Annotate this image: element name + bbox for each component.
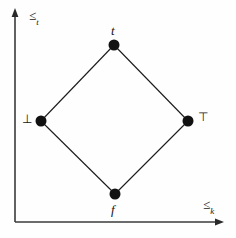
edge-top-right — [114, 45, 188, 121]
node-label-left: ⊥ — [22, 113, 32, 125]
lattice-edges — [41, 45, 188, 194]
lattice-nodes — [36, 40, 194, 200]
node-right[interactable] — [183, 116, 194, 127]
edge-left-top — [41, 45, 114, 121]
node-top[interactable] — [109, 40, 120, 51]
y-axis-label: ≤t — [29, 9, 39, 26]
bilattice-figure: t ⊥ ⊤ f ≤t ≤k — [0, 0, 236, 238]
edge-bottom-left — [41, 121, 115, 194]
x-axis-arrowhead — [215, 219, 224, 226]
x-axis-label: ≤k — [203, 198, 214, 215]
node-bottom[interactable] — [110, 189, 121, 200]
edge-right-bottom — [115, 121, 188, 194]
y-axis-arrowhead — [12, 8, 19, 17]
node-left[interactable] — [36, 116, 47, 127]
x-axis-label-subscript: k — [210, 206, 214, 216]
node-label-bottom: f — [111, 203, 115, 216]
node-label-right: ⊤ — [198, 111, 208, 123]
node-label-top: t — [111, 24, 115, 37]
y-axis-label-subscript: t — [36, 17, 39, 27]
